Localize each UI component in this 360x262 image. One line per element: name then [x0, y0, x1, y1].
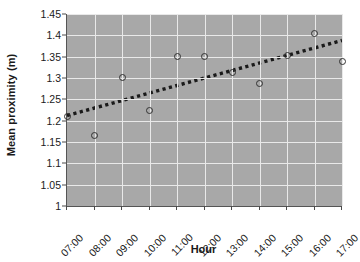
gridline-vertical — [177, 14, 178, 206]
y-axis-title-text: Mean proximity (m) — [5, 54, 17, 157]
y-axis-tick-label: 1.3 — [46, 72, 61, 84]
data-point — [284, 52, 291, 59]
data-point — [201, 53, 208, 60]
y-axis-title: Mean proximity (m) — [0, 0, 22, 210]
x-axis-title: Hour — [66, 243, 341, 255]
data-point — [174, 53, 181, 60]
gridline-vertical — [315, 14, 316, 206]
x-axis-tick-mark — [231, 206, 232, 210]
y-axis-tick-label: 1.05 — [41, 179, 61, 191]
gridline-vertical — [232, 14, 233, 206]
gridline-vertical — [95, 14, 96, 206]
x-axis-tick-mark — [176, 206, 177, 210]
data-point — [64, 113, 71, 120]
x-axis-tick-label: 17:00 — [352, 213, 360, 240]
data-point — [146, 107, 153, 114]
y-axis-tick-label: 1.45 — [41, 8, 61, 20]
y-axis-tick-layer: 1.451.41.351.31.251.21.151.11.051 — [22, 0, 66, 262]
gridline-vertical — [287, 14, 288, 206]
x-axis-tick-mark — [314, 206, 315, 210]
scatter-chart-figure: Mean proximity (m) 1.451.41.351.31.251.2… — [0, 0, 360, 262]
gridline-vertical — [205, 14, 206, 206]
x-axis-tick-mark — [94, 206, 95, 210]
data-point — [91, 132, 98, 139]
y-axis-tick-label: 1.35 — [41, 51, 61, 63]
plot-area — [66, 14, 342, 207]
x-axis-tick-mark — [66, 206, 67, 210]
x-axis-tick-mark — [341, 206, 342, 210]
y-axis-tick-label: 1.25 — [41, 93, 61, 105]
data-point — [339, 58, 346, 65]
y-axis-tick-label: 1.4 — [46, 29, 61, 41]
y-axis-tick-label: 1 — [55, 200, 61, 212]
gridline-vertical — [122, 14, 123, 206]
data-point — [256, 80, 263, 87]
x-axis-tick-mark — [286, 206, 287, 210]
y-axis-tick-label: 1.15 — [41, 136, 61, 148]
x-axis-tick-mark — [259, 206, 260, 210]
x-axis-tick-mark — [121, 206, 122, 210]
x-axis-tick-mark — [204, 206, 205, 210]
y-axis-tick-label: 1.1 — [46, 157, 61, 169]
x-axis-tick-mark — [149, 206, 150, 210]
gridline-vertical — [260, 14, 261, 206]
data-point — [119, 74, 126, 81]
y-axis-tick-label: 1.2 — [46, 115, 61, 127]
data-point — [229, 69, 236, 76]
gridline-vertical — [342, 14, 343, 206]
